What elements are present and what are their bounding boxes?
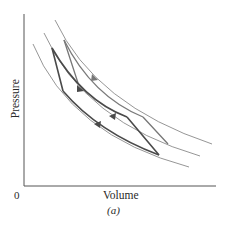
cycle-1-upper-segment — [52, 48, 127, 117]
cycle-1-lower-segment — [63, 91, 159, 155]
origin-label: 0 — [14, 190, 20, 201]
figure-caption: (a) — [107, 205, 120, 216]
cycle-1-sides — [52, 48, 159, 155]
cycle-2 — [64, 40, 168, 144]
arrow-down-right-icon — [91, 74, 98, 81]
y-axis-label: Pressure — [10, 74, 22, 124]
x-axis-label: Volume — [103, 190, 139, 202]
